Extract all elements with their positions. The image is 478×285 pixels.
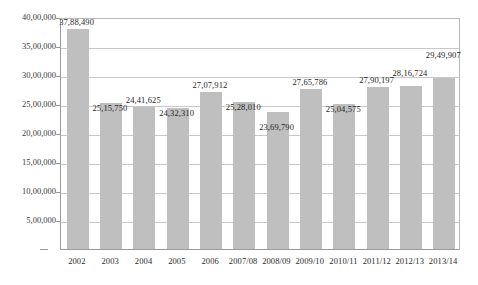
x-axis-tick-label: 2009/10 [296,256,325,266]
bar-value-label: 24,32,310 [159,108,194,118]
bar [433,78,455,249]
gridline [61,48,459,49]
x-axis-stub [40,249,48,250]
y-axis-tick-label: 15,00,000 [0,157,56,167]
bar [233,102,255,249]
y-axis-tick-label: 5,00,000 [0,215,56,225]
bar [400,86,422,249]
y-axis-tick-label: 20,00,000 [0,128,56,138]
bar-value-label: 27,90,197 [359,75,394,85]
bar [267,112,289,249]
x-axis-tick-label: 2006 [202,256,219,266]
bar [100,103,122,249]
bar-value-label: 25,28,010 [226,102,261,112]
bar-value-label: 25,04,575 [326,104,361,114]
bar-value-label: 27,07,912 [193,80,228,90]
bar [333,104,355,249]
bar [167,108,189,249]
x-axis-tick-label: 2005 [168,256,185,266]
x-axis-tick-label: 2003 [102,256,119,266]
bar [133,107,155,249]
x-axis-tick-label: 2011/12 [363,256,391,266]
y-axis-tick-label: 10,00,000 [0,186,56,196]
y-axis-tick-label: 35,00,000 [0,41,56,51]
bar-value-label: 37,88,490 [59,17,94,27]
bar [300,89,322,249]
x-axis-tick-label: 2010/11 [329,256,357,266]
x-axis-tick-label: 2007/08 [229,256,258,266]
bar-chart: 5,00,00010,00,00015,00,00020,00,00025,00… [0,0,478,285]
x-axis-tick-label: 2012/13 [396,256,425,266]
bar-value-label: 23,69,790 [259,122,294,132]
bar-value-label: 28,16,724 [393,68,428,78]
bar [367,87,389,249]
y-axis-tick-label: 40,00,000 [0,12,56,22]
plot-area [60,18,460,250]
bar-value-label: 24,41,625 [126,95,161,105]
bar-value-label: 27,65,786 [293,77,328,87]
bar-value-label: 29,49,907 [426,50,461,60]
bar-value-label: 25,15,750 [93,103,128,113]
bar [67,29,89,249]
x-axis-tick-label: 2002 [68,256,85,266]
y-axis-tick-label: 25,00,000 [0,99,56,109]
bar [200,92,222,249]
y-axis-tick-label: 30,00,000 [0,70,56,80]
x-axis-tick-label: 2013/14 [429,256,458,266]
x-axis-tick-label: 2004 [135,256,152,266]
x-axis-tick-label: 2008/09 [262,256,291,266]
